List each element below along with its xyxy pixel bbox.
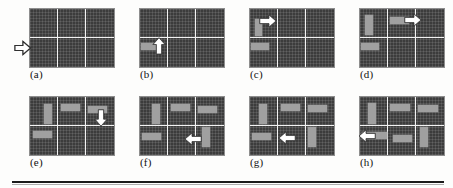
block-piece-vertical [368, 103, 376, 124]
panel-label-d: (d) [360, 68, 373, 80]
board-d [360, 9, 444, 67]
grid-line-horizontal [30, 37, 114, 38]
grid-line-vertical [305, 97, 306, 155]
block-piece-horizontal [281, 104, 300, 111]
board-h [360, 97, 444, 155]
arrow-left-icon [358, 129, 376, 143]
panel-a: (a) [14, 6, 119, 80]
block-piece-horizontal [418, 105, 438, 112]
page-rule-shadow [12, 184, 444, 185]
panel-label-e: (e) [30, 156, 43, 168]
grid-line-vertical [167, 9, 168, 67]
panel-label-f: (f) [140, 156, 152, 168]
arrow-left-icon [278, 131, 296, 145]
block-piece-horizontal [393, 135, 412, 142]
block-piece-horizontal [33, 131, 52, 138]
board-g [250, 97, 334, 155]
page-rule [12, 181, 444, 183]
block-piece-horizontal [252, 133, 271, 140]
grid-line-horizontal [250, 125, 334, 126]
grid-line-vertical [167, 97, 168, 155]
block-piece-horizontal [198, 106, 217, 113]
hollow-arrow-right-icon [14, 40, 32, 56]
block-piece-vertical [365, 15, 373, 35]
grid-line-vertical [85, 9, 86, 67]
grid-line-vertical [57, 9, 58, 67]
block-piece-vertical [202, 127, 210, 147]
arrow-right-icon [259, 14, 277, 28]
arrow-right-icon [404, 13, 422, 27]
grid-line-vertical [305, 9, 306, 67]
panel-label-b: (b) [140, 68, 153, 80]
figure-canvas: (a) (b) [0, 0, 453, 188]
grid-line-horizontal [250, 37, 334, 38]
block-piece-horizontal [390, 104, 410, 111]
board-b [140, 9, 224, 67]
block-piece-horizontal [142, 133, 161, 140]
grid-line-vertical [195, 97, 196, 155]
grid-line-vertical [277, 9, 278, 67]
board-a [30, 9, 114, 67]
grid-line-vertical [387, 9, 388, 67]
grid-line-horizontal [140, 125, 224, 126]
block-piece-vertical [44, 104, 52, 124]
block-piece-horizontal [61, 104, 80, 111]
panel-label-g: (g) [250, 156, 263, 168]
block-piece-horizontal [361, 43, 379, 50]
block-piece-horizontal [171, 104, 190, 111]
grid-line-vertical [195, 9, 196, 67]
board-f [140, 97, 224, 155]
block-piece-vertical [152, 104, 160, 124]
grid-line-horizontal [360, 125, 444, 126]
grid-line-vertical [387, 97, 388, 155]
grid-line-vertical [277, 97, 278, 155]
block-piece-vertical [259, 104, 267, 124]
arrow-left-icon [184, 132, 202, 146]
arrow-down-icon [94, 109, 108, 127]
block-piece-horizontal [251, 43, 269, 50]
board-e [30, 97, 114, 155]
board-c [250, 9, 334, 67]
grid-line-vertical [85, 97, 86, 155]
grid-line-horizontal [360, 37, 444, 38]
panel-e: (e) [14, 94, 119, 168]
grid-line-vertical [57, 97, 58, 155]
block-piece-vertical [308, 127, 316, 147]
panel-label-a: (a) [30, 68, 43, 80]
panel-h: (h) [344, 94, 449, 168]
panel-label-c: (c) [250, 68, 263, 80]
block-piece-horizontal [308, 105, 327, 112]
panel-f: (f) [124, 94, 229, 168]
block-piece-vertical [420, 127, 428, 147]
arrow-up-icon [152, 37, 166, 55]
grid-line-vertical [415, 97, 416, 155]
panel-b: (b) [124, 6, 229, 80]
panel-g: (g) [234, 94, 339, 168]
panel-label-h: (h) [360, 156, 373, 168]
panel-c: (c) [234, 6, 339, 80]
panel-d: (d) [344, 6, 449, 80]
